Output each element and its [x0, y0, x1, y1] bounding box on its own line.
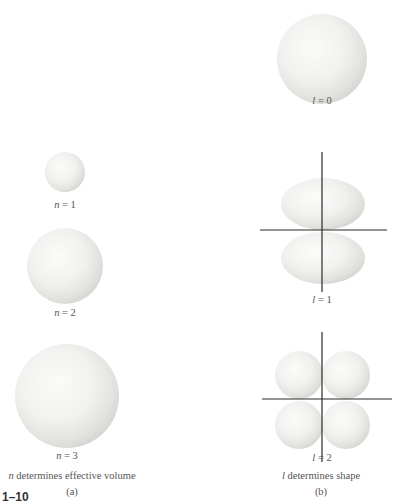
orbital-diagram — [0, 0, 408, 502]
caption-a: n determines effective volume — [8, 470, 135, 481]
tag-a: (a) — [66, 486, 78, 497]
sphere-l0 — [277, 14, 367, 104]
tag-b: (b) — [315, 486, 327, 497]
label-n2: n = 2 — [54, 307, 76, 318]
caption-b: l determines shape — [282, 470, 360, 481]
sphere-n2 — [27, 228, 103, 304]
label-l1: l = 1 — [312, 294, 331, 305]
sphere-n1 — [45, 152, 85, 192]
label-l0: l = 0 — [312, 95, 331, 106]
label-l2: l = 2 — [312, 452, 331, 463]
d-orbital-l2 — [262, 332, 392, 462]
figure-number: 1–10 — [2, 490, 29, 502]
label-n1: n = 1 — [54, 199, 76, 210]
sphere-n3 — [15, 344, 119, 448]
p-orbital-l1 — [260, 152, 387, 292]
label-n3: n = 3 — [56, 450, 78, 461]
